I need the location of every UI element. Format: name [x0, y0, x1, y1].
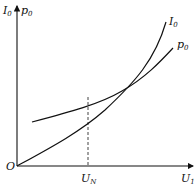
i0-curve	[17, 22, 166, 166]
origin-label: O	[6, 160, 15, 173]
curve-label-i0: I0	[168, 15, 178, 29]
curve-label-p0: p0	[177, 38, 189, 52]
p0-curve	[32, 48, 173, 122]
y-axis-label-i0: I0	[2, 4, 12, 18]
y-axis-label-p0: p0	[21, 4, 33, 18]
marker-label-un: UN	[81, 172, 97, 186]
x-axis-label-u1: U1	[181, 172, 195, 186]
chart: I0 p0 O UN U1 I0 p0	[0, 0, 196, 191]
